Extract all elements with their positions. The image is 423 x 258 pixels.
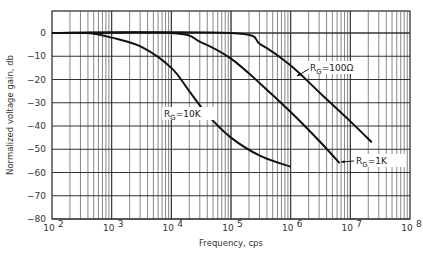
y-tick-label: −40 xyxy=(27,121,46,131)
x-tick-label: 10 xyxy=(103,223,115,233)
x-tick-exponent: 5 xyxy=(237,219,243,229)
x-tick-label: 10 xyxy=(282,223,294,233)
y-tick-label: −10 xyxy=(27,51,46,61)
x-tick-label: 10 xyxy=(222,223,234,233)
grid xyxy=(52,11,410,219)
x-tick-exponent: 4 xyxy=(177,219,183,229)
curve-label: RG=1K xyxy=(356,156,388,169)
curve-label: RG=10K xyxy=(164,109,202,122)
x-axis-label: Frequency, cps xyxy=(199,238,263,248)
y-tick-label: −50 xyxy=(27,144,46,154)
x-tick-exponent: 8 xyxy=(416,219,422,229)
x-tick-exponent: 6 xyxy=(297,219,303,229)
y-tick-label: −60 xyxy=(27,168,46,178)
curve-annotations: RG=10KRG=1KRG=100Ω xyxy=(162,61,406,169)
x-tick-label: 10 xyxy=(401,223,413,233)
x-tick-label: 10 xyxy=(163,223,175,233)
curves xyxy=(52,32,372,167)
y-tick-labels: 0−10−20−30−40−50−60−70−80 xyxy=(27,28,46,224)
y-axis-label: Normalized voltage gain, db xyxy=(5,55,15,175)
frequency-response-chart: 0−10−20−30−40−50−60−70−80 10210310410510… xyxy=(0,0,423,258)
x-tick-labels: 102103104105106107108 xyxy=(43,219,422,233)
curve-1k xyxy=(52,32,340,163)
y-tick-label: −20 xyxy=(27,75,46,85)
x-tick-label: 10 xyxy=(43,223,55,233)
y-tick-label: −70 xyxy=(27,191,46,201)
x-tick-exponent: 3 xyxy=(118,219,124,229)
x-tick-exponent: 7 xyxy=(356,219,362,229)
y-tick-label: −30 xyxy=(27,98,46,108)
x-tick-label: 10 xyxy=(342,223,354,233)
y-tick-label: 0 xyxy=(40,28,46,38)
x-tick-exponent: 2 xyxy=(58,219,64,229)
